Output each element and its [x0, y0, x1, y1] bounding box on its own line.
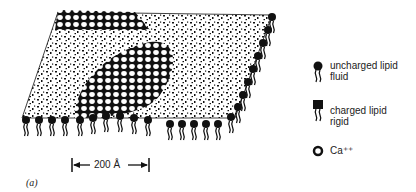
legend-calcium-line1: Ca⁺⁺: [330, 145, 353, 156]
calcium-ion-icon: [314, 147, 322, 155]
legend-charged-line2: rigid: [330, 116, 387, 127]
membrane-surface: [22, 10, 272, 118]
membrane-diagram: [0, 0, 416, 192]
legend-uncharged-line2: fluid: [330, 71, 398, 82]
legend-uncharged-label: uncharged lipid fluid: [330, 60, 398, 82]
legend-charged-line1: charged lipid: [330, 105, 387, 116]
uncharged-lipid-icon: [314, 62, 323, 83]
charged-lipid-icon: [313, 100, 323, 121]
panel-label: (a): [26, 177, 38, 188]
legend-uncharged-line1: uncharged lipid: [330, 60, 398, 71]
scale-bar-label: 200 Å: [94, 159, 120, 170]
legend-calcium-label: Ca⁺⁺: [330, 145, 353, 156]
legend-charged-label: charged lipid rigid: [330, 105, 387, 127]
